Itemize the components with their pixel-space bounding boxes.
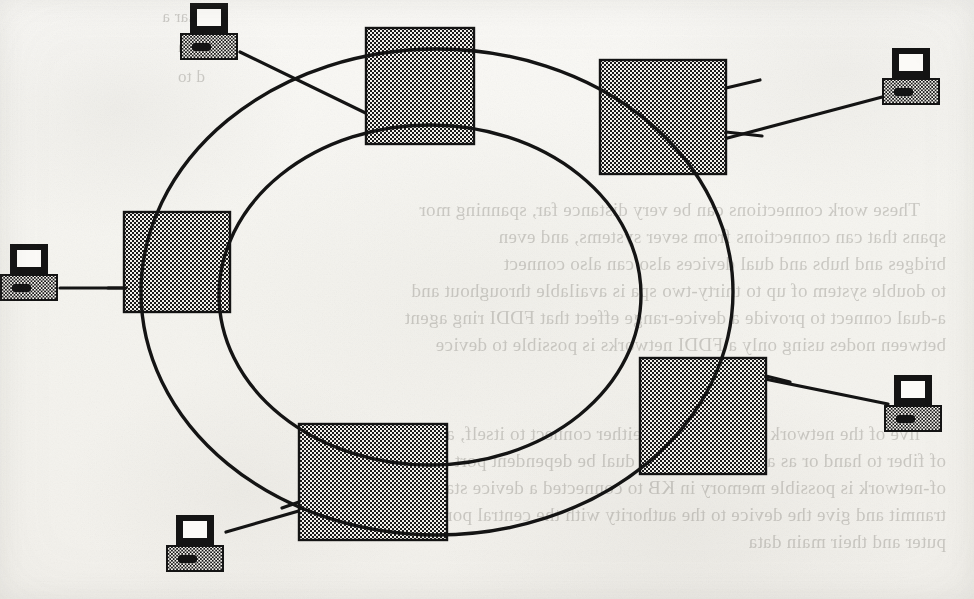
node-right-lower [640,358,766,474]
station-left-edge [1,244,57,300]
inner-ring [219,125,641,465]
scanned-page: I. Ear a tom d to These work connections… [0,0,974,599]
stub-top-right-a [726,80,760,88]
station-bottom [167,515,223,571]
station-top-right [883,48,939,104]
node-top-right [600,60,726,174]
station-right-lower [885,375,941,431]
link-station-right-lower [760,378,888,404]
station-top-left [181,3,237,59]
fddi-dual-ring-diagram [0,0,974,599]
link-station-top-left [240,52,380,120]
